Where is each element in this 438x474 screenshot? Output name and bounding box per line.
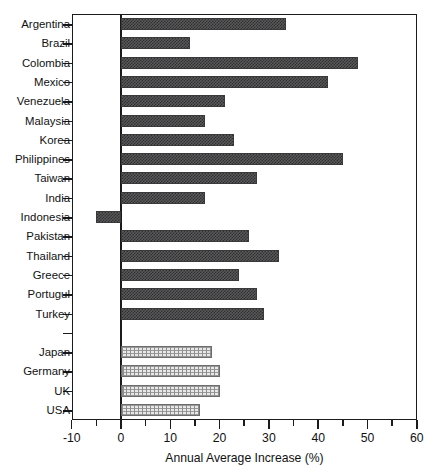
x-axis-tick-major <box>317 420 319 429</box>
x-axis-tick-major <box>367 420 369 429</box>
y-axis-label-brazil: Brazil <box>0 37 70 49</box>
chart-row: Germany <box>0 363 438 382</box>
y-axis-label-colombia: Colombia <box>0 57 70 69</box>
y-axis-label-venezuela: Venezuela <box>0 95 70 107</box>
chart-row-spacer <box>0 325 438 344</box>
x-axis-tick-major <box>120 420 122 429</box>
bar-germany[interactable] <box>121 365 220 377</box>
chart-row: Thailand <box>0 248 438 267</box>
chart-row: Korea <box>0 132 438 151</box>
y-axis-label-korea: Korea <box>0 134 70 146</box>
chart-row: India <box>0 190 438 209</box>
bar-chart: ArgentinaBrazilColombiaMexicoVenezuelaMa… <box>0 0 438 474</box>
x-axis-tick-minor <box>243 420 245 426</box>
chart-row: Turkey <box>0 306 438 325</box>
y-axis-label-indonesia: Indonesia <box>0 211 70 223</box>
bar-usa[interactable] <box>121 404 200 416</box>
x-axis-tick-minor <box>293 420 295 426</box>
chart-row: Greece <box>0 267 438 286</box>
y-axis-label-malaysia: Malaysia <box>0 115 70 127</box>
bar-philippines[interactable] <box>121 153 343 165</box>
chart-row: Venezuela <box>0 93 438 112</box>
bar-pakistan[interactable] <box>121 230 249 242</box>
y-axis-label-india: India <box>0 192 70 204</box>
chart-row: Argentina <box>0 16 438 35</box>
chart-row: Indonesia <box>0 209 438 228</box>
bar-thailand[interactable] <box>121 250 279 262</box>
bar-turkey[interactable] <box>121 308 264 320</box>
x-axis: Annual Average Increase (%) -10010203040… <box>0 420 438 474</box>
bar-india[interactable] <box>121 192 205 204</box>
chart-row: USA <box>0 402 438 421</box>
y-axis-label-thailand: Thailand <box>0 250 70 262</box>
y-axis-label-germany: Germany <box>0 365 70 377</box>
bar-taiwan[interactable] <box>121 172 257 184</box>
bar-mexico[interactable] <box>121 76 328 88</box>
chart-row: Taiwan <box>0 170 438 189</box>
chart-row: Japan <box>0 344 438 363</box>
chart-row: UK <box>0 383 438 402</box>
x-axis-tick-major <box>268 420 270 429</box>
x-axis-tick-label: 60 <box>387 431 438 445</box>
chart-row: Portugul <box>0 286 438 305</box>
y-axis-label-mexico: Mexico <box>0 76 70 88</box>
y-axis-label-taiwan: Taiwan <box>0 172 70 184</box>
y-axis-label-turkey: Turkey <box>0 308 70 320</box>
chart-row: Mexico <box>0 74 438 93</box>
bar-argentina[interactable] <box>121 18 286 30</box>
chart-row: Brazil <box>0 35 438 54</box>
y-axis-label-uk: UK <box>0 385 70 397</box>
x-axis-tick-major <box>71 420 73 429</box>
bar-japan[interactable] <box>121 346 212 358</box>
chart-rows: ArgentinaBrazilColombiaMexicoVenezuelaMa… <box>0 0 438 474</box>
bar-portugul[interactable] <box>121 288 257 300</box>
x-axis-tick-major <box>219 420 221 429</box>
y-axis-label-philippines: Philippines <box>0 153 70 165</box>
bar-indonesia[interactable] <box>96 211 121 223</box>
chart-row: Colombia <box>0 55 438 74</box>
x-axis-tick-minor <box>342 420 344 426</box>
y-axis-label-pakistan: Pakistan <box>0 230 70 242</box>
y-axis-label-portugul: Portugul <box>0 288 70 300</box>
bar-greece[interactable] <box>121 269 239 281</box>
bar-uk[interactable] <box>121 385 220 397</box>
x-axis-tick-minor <box>96 420 98 426</box>
chart-row: Malaysia <box>0 113 438 132</box>
x-axis-tick-minor <box>391 420 393 426</box>
x-axis-title: Annual Average Increase (%) <box>72 451 417 465</box>
x-axis-tick-major <box>416 420 418 429</box>
chart-row: Pakistan <box>0 228 438 247</box>
y-axis-label-argentina: Argentina <box>0 18 70 30</box>
bar-malaysia[interactable] <box>121 115 205 127</box>
bar-brazil[interactable] <box>121 37 190 49</box>
bar-venezuela[interactable] <box>121 95 225 107</box>
bar-korea[interactable] <box>121 134 234 146</box>
x-axis-tick-minor <box>145 420 147 426</box>
y-axis-label-usa: USA <box>0 404 70 416</box>
x-axis-tick-minor <box>194 420 196 426</box>
y-axis-tick <box>63 333 72 335</box>
x-axis-tick-major <box>170 420 172 429</box>
bar-colombia[interactable] <box>121 57 358 69</box>
y-axis-label-japan: Japan <box>0 346 70 358</box>
chart-row: Philippines <box>0 151 438 170</box>
y-axis-label-greece: Greece <box>0 269 70 281</box>
